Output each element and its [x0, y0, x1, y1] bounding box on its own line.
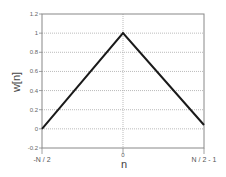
- y-tick-label: 0.8: [30, 49, 39, 55]
- y-tick-label: -0.2: [28, 145, 39, 151]
- y-tick-label: 0.2: [30, 107, 39, 113]
- y-tick-label: 1: [35, 30, 39, 36]
- y-tick-label: 0: [35, 126, 39, 132]
- y-axis-label: w[n]: [10, 72, 22, 93]
- y-axis-ticks: -0.200.20.40.60.811.2: [28, 11, 42, 151]
- y-tick-label: 1.2: [30, 11, 39, 17]
- x-tick-label: N / 2 - 1: [192, 156, 217, 163]
- y-tick-label: 0.4: [30, 88, 39, 94]
- triangular-window-chart: -0.200.20.40.60.811.2 -N / 20N / 2 - 1 w…: [0, 0, 226, 177]
- x-axis-label: n: [121, 158, 127, 170]
- x-tick-label: -N / 2: [33, 156, 50, 163]
- y-tick-label: 0.6: [30, 68, 39, 74]
